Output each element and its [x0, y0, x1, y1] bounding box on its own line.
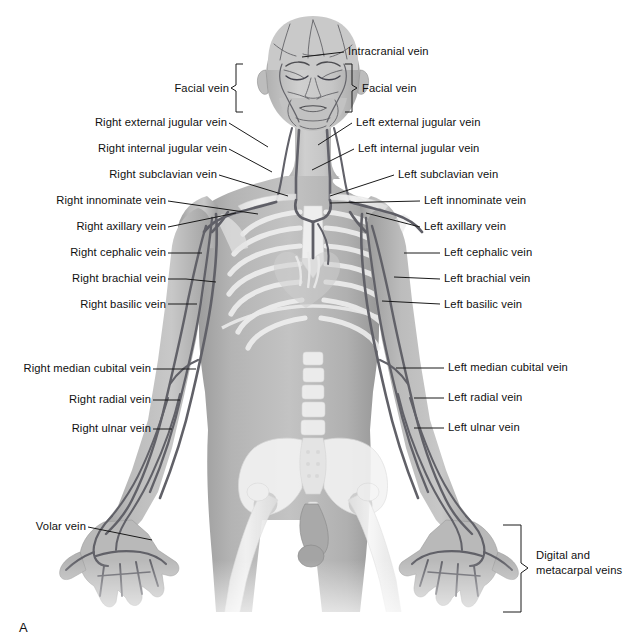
label-left-ulnar-vein: Left ulnar vein — [448, 421, 520, 434]
leader-lines-layer — [0, 0, 624, 641]
label-left-cephalic-vein: Left cephalic vein — [444, 246, 532, 259]
bracket-facial-vein-left — [345, 64, 357, 112]
label-facial-vein-left: Facial vein — [362, 82, 417, 95]
label-right-ulnar-vein: Right ulnar vein — [0, 422, 151, 435]
bracket-digital-metacarpal-veins — [503, 525, 528, 612]
label-left-subclavian-vein: Left subclavian vein — [398, 168, 498, 181]
leader-right-axillary-vein — [168, 213, 236, 227]
label-digital-metacarpal-veins-line2: metacarpal veins — [536, 564, 622, 577]
leader-right-subclavian-vein — [219, 175, 288, 196]
leader-left-innominate-vein — [330, 201, 420, 203]
leader-left-basilic-vein — [382, 301, 440, 304]
leader-right-external-jugular-vein — [229, 123, 268, 147]
label-right-brachial-vein: Right brachial vein — [0, 272, 166, 285]
leader-left-internal-jugular-vein — [312, 149, 354, 170]
label-digital-metacarpal-veins-line1: Digital and — [536, 549, 590, 562]
label-right-axillary-vein: Right axillary vein — [0, 220, 166, 233]
label-right-basilic-vein: Right basilic vein — [0, 298, 166, 311]
label-left-brachial-vein: Left brachial vein — [444, 272, 530, 285]
leader-right-internal-jugular-vein — [229, 149, 272, 172]
leader-left-axillary-vein — [366, 213, 420, 227]
label-left-median-cubital-vein: Left median cubital vein — [448, 361, 568, 374]
label-left-axillary-vein: Left axillary vein — [424, 220, 506, 233]
label-intracranial-vein: Intracranial vein — [348, 45, 429, 58]
leader-intracranial-vein — [302, 52, 344, 57]
label-right-radial-vein: Right radial vein — [0, 393, 151, 406]
anatomy-figure-panel: Right external jugular vein Right intern… — [0, 0, 624, 641]
label-right-internal-jugular-vein: Right internal jugular vein — [0, 142, 227, 155]
label-left-radial-vein: Left radial vein — [448, 391, 522, 404]
leader-left-brachial-vein — [394, 277, 440, 279]
leader-right-innominate-vein — [168, 201, 258, 214]
label-right-innominate-vein: Right innominate vein — [0, 194, 166, 207]
label-facial-vein-right: Facial vein — [0, 82, 229, 95]
bracket-facial-vein-right — [231, 64, 243, 112]
panel-letter: A — [19, 620, 28, 635]
label-left-basilic-vein: Left basilic vein — [444, 298, 522, 311]
leader-volar-vein — [88, 527, 152, 540]
leader-right-brachial-vein — [168, 279, 216, 282]
label-right-cephalic-vein: Right cephalic vein — [0, 246, 166, 259]
label-right-external-jugular-vein: Right external jugular vein — [0, 116, 227, 129]
label-left-innominate-vein: Left innominate vein — [424, 194, 526, 207]
leader-left-external-jugular-vein — [318, 123, 352, 145]
label-left-internal-jugular-vein: Left internal jugular vein — [358, 142, 479, 155]
label-right-subclavian-vein: Right subclavian vein — [0, 168, 217, 181]
leader-left-subclavian-vein — [330, 175, 394, 196]
label-left-external-jugular-vein: Left external jugular vein — [356, 116, 481, 129]
label-volar-vein: Volar vein — [0, 520, 86, 533]
label-right-median-cubital-vein: Right median cubital vein — [0, 362, 151, 375]
